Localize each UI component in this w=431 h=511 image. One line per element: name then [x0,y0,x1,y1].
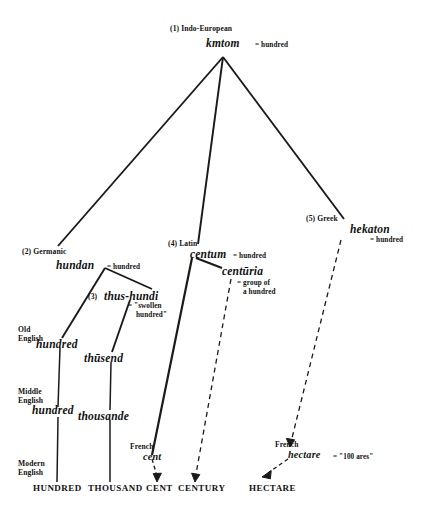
stage-label-germanic: (2) Germanic [22,248,66,256]
gloss-centum: = hundred [233,252,266,261]
edge-oe-hundred-to-me-hundred [58,348,60,407]
stage-label-modern-english-line1: Modern [18,459,45,468]
stage-label-old-english-line1: Old [18,325,43,334]
stage-label-middle-english-line1: Middle [18,387,43,396]
gloss-thus-hundi-line1: = "swollen [128,302,162,311]
stage-label-french-hectare: French [275,441,299,449]
edge-ie-to-latin [198,57,223,244]
stage-label-thus-hundi: (3) [88,293,97,301]
word-hundan: hundan [56,259,94,271]
word-french-hectare: hectare [288,450,321,461]
outcome-thousand: THOUSAND [88,484,143,493]
outcome-hectare: HECTARE [249,484,296,493]
edge-ie-to-germanic [58,57,223,246]
outcome-century: CENTURY [178,484,225,493]
stage-label-modern-english-line2: English [18,468,45,477]
arrowhead-hectare [262,471,271,479]
gloss-french-hectare: = "100 ares" [333,453,373,462]
edge-latin-to-french-cent [152,258,192,455]
gloss-kmtom: = hundred [255,41,288,50]
word-thousande: thousande [78,410,129,422]
word-hekaton: hekaton [350,223,390,235]
word-thus-hundi: thus-hundi [104,290,158,302]
outcome-hundred: HUNDRED [33,484,82,493]
gloss-hekaton: = hundred [370,236,403,245]
edge-germanic-to-oe-hundred [62,268,105,338]
gloss-hundan: = hundred [107,263,140,272]
word-kmtom: kmtom [206,37,240,49]
outcome-cent: CENT [146,484,173,493]
stage-label-middle-english: Middle English [18,387,43,406]
gloss-centuria-line2: a hundred [243,288,276,297]
edge-me-hundred-to-modern [57,417,58,482]
etymology-diagram: (1) Indo-European kmtom = hundred (2) Ge… [0,0,431,511]
edge-greek-to-french-hectare [292,240,341,438]
word-thusend: thūsend [84,352,123,364]
word-centum: centum [190,248,226,260]
edge-centuria-to-century [196,279,231,474]
stage-label-latin: (4) Latin [168,240,197,248]
arrowhead-cent [153,473,161,482]
edge-thusend-to-thousande [110,362,111,410]
word-centuria: centūria [222,265,263,277]
arrowhead-century [192,473,200,482]
stage-label-greek: (5) Greek [306,215,338,223]
gloss-centuria-line1: = group of [237,279,270,288]
word-middle-english-hundred: hundred [32,404,74,416]
stage-label-modern-english: Modern English [18,459,45,478]
stage-label-french-cent: French [130,443,154,451]
word-old-english-hundred: hundred [36,338,78,350]
stage-label-indo-european: (1) Indo-European [170,25,232,33]
gloss-thus-hundi-line2: hundred" [136,311,167,320]
word-french-cent: cent [143,452,161,463]
edge-ie-to-greek [223,57,344,219]
